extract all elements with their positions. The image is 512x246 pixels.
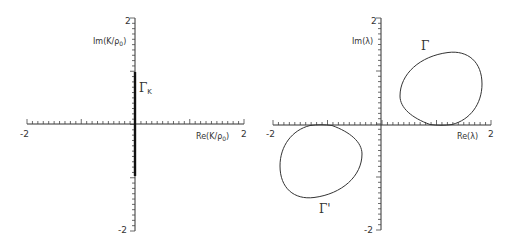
right-panel: -2 2 2 -2 Im(λ) Re(λ) Γ Γ' xyxy=(266,16,494,235)
left-panel: -2 2 2 -2 Im(K/ρ0) Re(K/ρ0) ΓK xyxy=(20,16,247,235)
gamma-prime-label: Γ' xyxy=(319,202,331,216)
right-y-max-label: 2 xyxy=(371,16,377,26)
left-x-max-label: 2 xyxy=(241,129,247,139)
right-x-max-label: 2 xyxy=(488,129,494,139)
right-x-min-label: -2 xyxy=(266,129,275,139)
left-y-min-label: -2 xyxy=(118,225,127,235)
left-y-max-label: 2 xyxy=(125,16,131,26)
gamma-curve xyxy=(400,52,482,125)
left-y-axis-label: Im(K/ρ0) xyxy=(93,37,126,47)
left-x-axis-label: Re(K/ρ0) xyxy=(196,132,229,142)
gamma-k-label: ΓK xyxy=(139,81,152,96)
figure: -2 2 2 -2 Im(K/ρ0) Re(K/ρ0) ΓK -2 2 2 -2… xyxy=(0,0,512,246)
gamma-prime-curve xyxy=(280,125,362,198)
right-y-min-label: -2 xyxy=(364,225,373,235)
gamma-label: Γ xyxy=(421,39,429,53)
right-y-axis xyxy=(376,18,381,230)
right-y-axis-label: Im(λ) xyxy=(352,37,373,46)
left-x-min-label: -2 xyxy=(20,129,29,139)
right-y-ticks xyxy=(376,18,381,230)
right-x-axis-label: Re(λ) xyxy=(457,132,478,141)
